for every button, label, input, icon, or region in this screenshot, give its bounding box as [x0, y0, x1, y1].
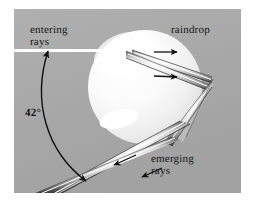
- label-entering-rays: entering rays: [30, 25, 68, 48]
- figure-frame: entering rays raindrop emerging rays 42°: [14, 9, 241, 193]
- label-angle-42: 42°: [25, 108, 41, 120]
- label-emerging-rays: emerging rays: [151, 154, 194, 177]
- raindrop-refraction-figure: entering rays raindrop emerging rays 42°: [0, 0, 255, 208]
- label-raindrop: raindrop: [171, 25, 210, 37]
